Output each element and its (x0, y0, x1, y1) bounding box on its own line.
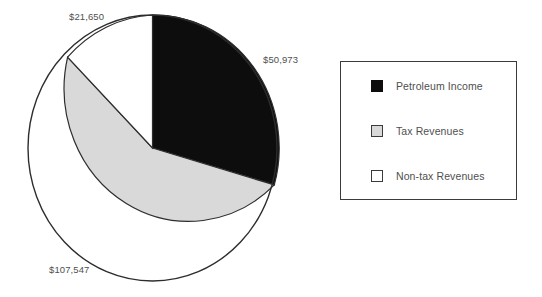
pie-label-tax-revenues: $107,547 (49, 264, 89, 276)
legend-label-tax-revenues: Tax Revenues (396, 125, 464, 138)
pie-chart-graphic (0, 0, 320, 297)
pie-chart-figure: $21,650 $50,973 $107,547 Petroleum Incom… (0, 0, 542, 297)
legend-swatch-tax-revenues (371, 125, 383, 137)
legend-swatch-petroleum-income (371, 80, 383, 92)
pie-label-petroleum-income: $50,973 (263, 54, 298, 66)
pie-label-nontax-revenues: $21,650 (69, 11, 104, 23)
legend-item-tax-revenues[interactable]: Tax Revenues (371, 124, 464, 138)
legend-item-nontax-revenues[interactable]: Non-tax Revenues (371, 169, 485, 183)
legend-label-nontax-revenues: Non-tax Revenues (396, 170, 485, 183)
legend-item-petroleum-income[interactable]: Petroleum Income (371, 79, 483, 93)
chart-legend: Petroleum Income Tax Revenues Non-tax Re… (340, 61, 517, 200)
legend-label-petroleum-income: Petroleum Income (396, 80, 483, 93)
legend-swatch-nontax-revenues (371, 170, 383, 182)
